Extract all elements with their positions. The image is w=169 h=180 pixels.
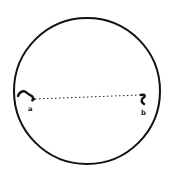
- label-b: b: [141, 108, 146, 117]
- squiggle-marker-a: [18, 91, 34, 100]
- diagram-canvas: a b: [0, 0, 169, 180]
- dotted-connector: [35, 95, 140, 99]
- label-a: a: [28, 104, 33, 113]
- boundary-circle: [14, 18, 160, 164]
- squiggle-marker-b: [141, 95, 145, 104]
